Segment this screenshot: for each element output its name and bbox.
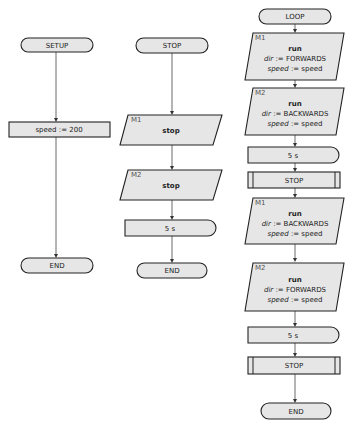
end-label: END	[288, 408, 303, 416]
delay-5s-2[interactable]: 5 s	[248, 327, 339, 343]
m1-run-backwards-io[interactable]: M1 run dir := BACKWARDS speed := speed	[245, 198, 344, 244]
stop-label: STOP	[285, 177, 303, 185]
dir-assign: dir := BACKWARDS	[262, 220, 329, 228]
m2-tag: M2	[131, 171, 142, 179]
m2-stop-io[interactable]: M2 stop	[120, 170, 222, 200]
delay-label: 5 s	[288, 332, 299, 340]
end-label: END	[49, 262, 64, 270]
m1-tag: M1	[131, 116, 142, 124]
dir-assign: dir := FORWARDS	[264, 55, 327, 63]
stop-subroutine-2[interactable]: STOP	[248, 357, 340, 374]
flowchart-canvas: SETUP speed := 200 END STOP M1 stop	[0, 0, 354, 430]
run-command: run	[288, 210, 301, 218]
delay-5s[interactable]: 5 s	[125, 220, 216, 236]
speed-assign: speed := speed	[268, 296, 323, 304]
setup-terminator[interactable]: SETUP	[21, 38, 93, 52]
speed-assign: speed := speed	[268, 65, 323, 73]
speed-assign: speed := speed	[268, 230, 323, 238]
stop-flow: STOP M1 stop M2 stop 5 s END	[120, 38, 222, 278]
m2-tag: M2	[255, 264, 266, 272]
run-command: run	[288, 100, 301, 108]
stop-subroutine-1[interactable]: STOP	[248, 172, 340, 188]
loop-label: LOOP	[286, 13, 305, 21]
end-label: END	[164, 267, 179, 275]
m1-tag: M1	[255, 199, 266, 207]
loop-terminator[interactable]: LOOP	[259, 9, 331, 24]
m2-tag: M2	[255, 89, 266, 97]
m2-run-backwards-io[interactable]: M2 run dir := BACKWARDS speed := speed	[245, 88, 344, 135]
speed-assign: speed := speed	[268, 120, 323, 128]
dir-assign: dir := FORWARDS	[264, 286, 327, 294]
stop-end-terminator[interactable]: END	[137, 263, 207, 278]
dir-assign: dir := BACKWARDS	[262, 110, 329, 118]
loop-end-terminator[interactable]: END	[261, 403, 331, 419]
run-command: run	[288, 276, 301, 284]
m1-tag: M1	[255, 34, 266, 42]
setup-label: SETUP	[46, 42, 69, 50]
setup-end-terminator[interactable]: END	[21, 258, 93, 273]
speed-assign-process[interactable]: speed := 200	[9, 122, 110, 137]
speed-assign-label: speed := 200	[35, 126, 82, 134]
m1-run-forwards-io[interactable]: M1 run dir := FORWARDS speed := speed	[245, 33, 344, 80]
m1-stop-io[interactable]: M1 stop	[120, 115, 222, 145]
delay-label: 5 s	[165, 225, 176, 233]
stop-terminator[interactable]: STOP	[136, 38, 208, 53]
run-command: run	[288, 45, 301, 53]
delay-5s-1[interactable]: 5 s	[248, 147, 339, 163]
m2-run-forwards-io[interactable]: M2 run dir := FORWARDS speed := speed	[245, 263, 344, 311]
stop-command: stop	[162, 182, 179, 190]
stop-label: STOP	[285, 362, 303, 370]
stop-command: stop	[162, 127, 179, 135]
delay-label: 5 s	[288, 152, 299, 160]
loop-flow: LOOP M1 run dir := FORWARDS speed := spe…	[245, 9, 344, 419]
setup-flow: SETUP speed := 200 END	[9, 38, 110, 273]
stop-label: STOP	[163, 42, 181, 50]
